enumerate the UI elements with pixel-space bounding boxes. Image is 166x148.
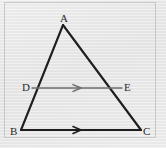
vertex-label-b: B [10,126,17,137]
triangle-diagram-svg [0,0,166,148]
geometry-figure: A B C D E [0,0,166,148]
vertex-label-c: C [143,126,150,137]
parallel-arrow-markers [73,85,81,134]
vertex-label-e: E [124,82,131,93]
segment-ac [63,25,141,130]
segment-ab [21,25,63,130]
vertex-label-a: A [60,13,68,24]
triangle-edges [21,25,141,130]
vertex-label-d: D [22,82,30,93]
